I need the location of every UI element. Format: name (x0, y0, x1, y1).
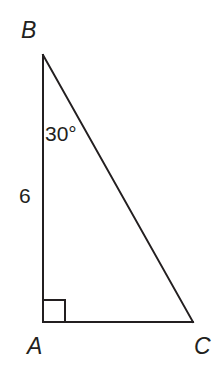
right-angle-marker (43, 300, 65, 322)
triangle-outline (43, 55, 193, 322)
vertex-label-a: A (27, 335, 42, 358)
geometry-figure: B A C 30° 6 (0, 0, 218, 380)
segment-bc (43, 55, 193, 322)
triangle-drawing (0, 0, 218, 380)
side-length-label-ab: 6 (19, 185, 31, 206)
angle-measure-label-b: 30° (45, 123, 77, 144)
vertex-label-c: C (194, 335, 211, 358)
vertex-label-b: B (21, 19, 36, 42)
